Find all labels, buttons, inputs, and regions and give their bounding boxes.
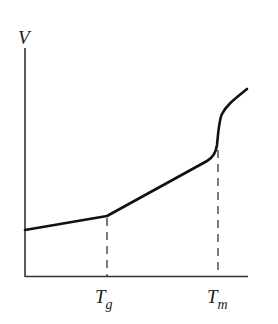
- tm-label: Tm: [207, 286, 228, 312]
- volume-curve: [25, 89, 247, 230]
- tg-label: Tg: [95, 286, 113, 312]
- tg-label-sub: g: [106, 297, 113, 312]
- volume-temperature-diagram: V Tg Tm: [0, 0, 278, 324]
- y-axis-label: V: [18, 27, 32, 48]
- tm-label-sub: m: [218, 297, 228, 312]
